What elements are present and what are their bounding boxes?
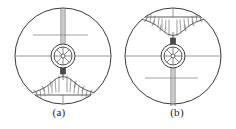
figure-panel-b: (b)	[118, 0, 236, 129]
figure-panel-a: (a)	[0, 0, 118, 129]
spoked-hub	[51, 44, 75, 68]
panel-a-caption: (a)	[0, 105, 118, 119]
hub-core	[61, 54, 65, 58]
panel-b-caption: (b)	[118, 105, 236, 119]
figure-root: (a)	[0, 0, 236, 129]
spoked-hub	[161, 44, 185, 68]
hub-core	[171, 54, 175, 58]
